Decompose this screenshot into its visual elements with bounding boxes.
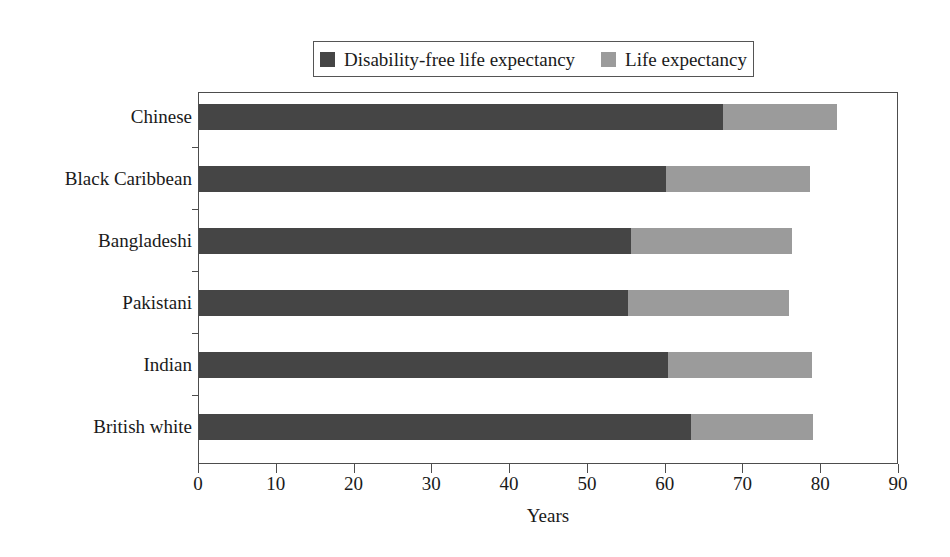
chart-legend: Disability-free life expectancy Life exp… — [313, 41, 754, 77]
x-axis-tick-label: 50 — [577, 474, 596, 493]
x-axis-ticks — [198, 464, 898, 474]
y-axis-label: Pakistani — [2, 293, 192, 312]
bar-segment-disability-free-life-expectancy — [199, 414, 691, 440]
bar-segment-life-expectancy — [668, 352, 812, 378]
bar-row — [199, 352, 897, 378]
plot-area-frame — [198, 92, 898, 464]
x-axis-tick-label: 90 — [889, 474, 908, 493]
legend-label-life-expectancy: Life expectancy — [625, 50, 747, 69]
x-axis-tick — [509, 464, 510, 473]
x-axis-tick — [198, 464, 199, 473]
x-axis-tick — [587, 464, 588, 473]
bar-segment-life-expectancy — [666, 166, 810, 192]
bar-segment-disability-free-life-expectancy — [199, 352, 668, 378]
x-axis-tick — [665, 464, 666, 473]
legend-entry-life-expectancy: Life expectancy — [601, 50, 747, 69]
y-axis-label: Bangladeshi — [2, 231, 192, 250]
legend-entry-disability-free-life-expectancy: Disability-free life expectancy — [320, 50, 575, 69]
legend-swatch-icon-dark — [320, 52, 335, 67]
x-axis-tick — [820, 464, 821, 473]
x-axis-tick-labels: 0102030405060708090 — [198, 474, 898, 500]
x-axis-tick-label: 30 — [422, 474, 441, 493]
bar-segment-disability-free-life-expectancy — [199, 228, 631, 254]
bar-segment-life-expectancy — [723, 104, 837, 130]
y-axis-label: Chinese — [2, 107, 192, 126]
bar-row — [199, 228, 897, 254]
x-axis-tick-label: 80 — [811, 474, 830, 493]
x-axis-tick — [276, 464, 277, 473]
x-axis-tick-label: 60 — [655, 474, 674, 493]
x-axis-tick — [742, 464, 743, 473]
y-axis-labels: ChineseBlack CaribbeanBangladeshiPakista… — [0, 92, 192, 464]
bar-row — [199, 414, 897, 440]
x-axis-tick-label: 70 — [733, 474, 752, 493]
x-axis-tick — [354, 464, 355, 473]
bar-segment-life-expectancy — [631, 228, 792, 254]
bar-row — [199, 104, 897, 130]
x-axis-tick-label: 0 — [193, 474, 203, 493]
bar-segment-disability-free-life-expectancy — [199, 104, 723, 130]
bar-row — [199, 166, 897, 192]
x-axis-tick-label: 20 — [344, 474, 363, 493]
stacked-bar-chart: Disability-free life expectancy Life exp… — [0, 0, 950, 557]
x-axis-tick-label: 40 — [500, 474, 519, 493]
x-axis-tick — [431, 464, 432, 473]
x-axis-title: Years — [198, 505, 898, 527]
bar-row — [199, 290, 897, 316]
bar-segment-disability-free-life-expectancy — [199, 290, 628, 316]
bar-segment-life-expectancy — [628, 290, 789, 316]
x-axis-tick-label: 10 — [266, 474, 285, 493]
y-axis-label: British white — [2, 417, 192, 436]
y-axis-label: Black Caribbean — [2, 169, 192, 188]
legend-label-disability-free-life-expectancy: Disability-free life expectancy — [344, 50, 575, 69]
bar-segment-disability-free-life-expectancy — [199, 166, 666, 192]
legend-swatch-icon-light — [601, 52, 616, 67]
x-axis-tick — [898, 464, 899, 473]
bar-segment-life-expectancy — [691, 414, 813, 440]
plot-area — [199, 93, 897, 463]
y-axis-label: Indian — [2, 355, 192, 374]
